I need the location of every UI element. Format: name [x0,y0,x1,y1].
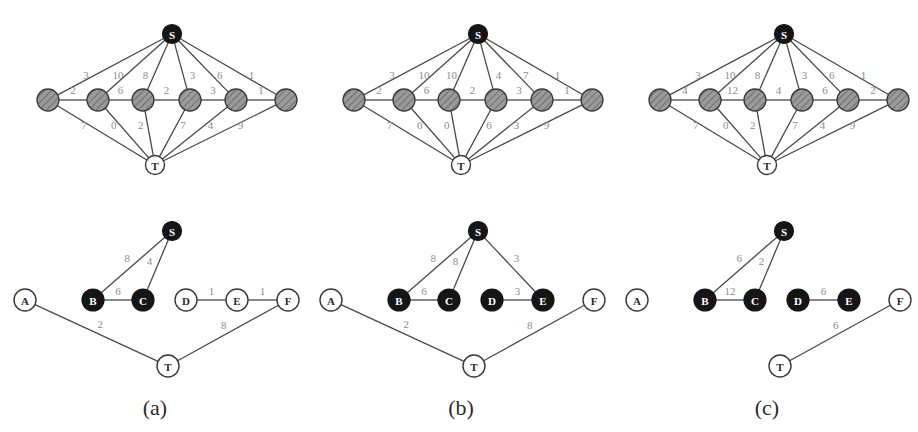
node-circle [393,89,415,111]
node-label: T [151,160,159,172]
weight-sink-1: 0 [417,119,423,131]
top-node-mid-1[interactable] [87,89,109,111]
graph-figure-svg: 310836126231702749ST8461128SABCDEFT(a)31… [0,0,918,432]
weight-D-E: 6 [821,285,827,297]
bottom-node-F[interactable]: F [889,289,911,311]
node-label: C [751,295,759,307]
edge-sink-mid-1 [717,108,760,158]
edge-sink-mid-3 [466,110,491,157]
edge-sink-mid-2 [145,111,153,156]
node-circle [649,89,671,111]
top-node-mid-3[interactable] [179,89,201,111]
top-node-mid-0[interactable] [649,89,671,111]
weight-chain-4: 1 [258,84,264,96]
bottom-node-D[interactable]: D [787,289,809,311]
bottom-node-B[interactable]: B [82,289,104,311]
bottom-node-S[interactable]: S [775,222,794,241]
weight-chain-1: 6 [118,84,124,96]
top-node-mid-3[interactable] [791,89,813,111]
weight-source-0: 3 [695,69,701,81]
edge-A-T [35,305,158,362]
bottom-node-S[interactable]: S [163,222,182,241]
bottom-node-C[interactable]: C [132,289,154,311]
bottom-node-D[interactable]: D [175,289,197,311]
bottom-node-A[interactable]: A [14,289,36,311]
weight-source-5: 1 [249,69,255,81]
panels-group: 310836126231702749ST8461128SABCDEFT(a)31… [14,25,911,421]
bottom-node-A[interactable]: A [320,289,342,311]
top-node-mid-0[interactable] [37,89,59,111]
bottom-node-D[interactable]: D [481,289,503,311]
bottom-node-S[interactable]: S [469,222,488,241]
edge-sink-mid-1 [411,108,454,158]
top-node-mid-4[interactable] [531,89,553,111]
panel-caption: (b) [448,395,474,420]
node-label: E [539,295,546,307]
top-node-sink[interactable]: T [758,156,777,175]
weight-T-F: 8 [221,319,227,331]
node-circle [887,89,909,111]
top-node-sink[interactable]: T [452,156,471,175]
weight-chain-3: 6 [822,84,828,96]
edge-sink-mid-1 [105,108,148,158]
top-node-mid-4[interactable] [837,89,859,111]
bottom-node-T[interactable]: T [769,355,791,377]
bottom-graph: 8836328SABCDEFT [320,222,605,378]
bottom-node-E[interactable]: E [838,289,860,311]
node-label: T [763,160,771,172]
bottom-node-T[interactable]: T [157,355,179,377]
edge-S-B [713,237,777,293]
bottom-node-F[interactable]: F [583,289,605,311]
edge-T-F [484,305,585,360]
edge-A-T [341,305,464,362]
top-node-mid-5[interactable] [887,89,909,111]
panel-b: 3101047126231700639ST8836328SABCDEFT(b) [320,25,605,421]
node-label: S [475,29,481,41]
bottom-node-C[interactable]: C [438,289,460,311]
weight-chain-2: 2 [470,84,476,96]
weight-source-3: 3 [190,69,196,81]
top-node-mid-2[interactable] [438,89,460,111]
top-node-mid-1[interactable] [393,89,415,111]
top-node-source[interactable]: S [775,25,794,44]
weight-source-5: 1 [861,69,867,81]
edge-T-F [790,305,891,360]
weight-source-1: 10 [112,69,124,81]
bottom-node-B[interactable]: B [388,289,410,311]
top-graph: 3101047126231700639ST [343,25,603,175]
bottom-node-C[interactable]: C [744,289,766,311]
top-node-mid-5[interactable] [581,89,603,111]
top-node-mid-3[interactable] [485,89,507,111]
top-node-source[interactable]: S [163,25,182,44]
weight-S-C: 2 [759,255,765,267]
panel-c: 3108361412462702749ST621266SABCDEFT(c) [626,25,911,421]
weight-sink-0: 7 [693,119,699,131]
weight-chain-4: 1 [564,84,570,96]
bottom-node-F[interactable]: F [277,289,299,311]
bottom-node-E[interactable]: E [532,289,554,311]
top-node-mid-0[interactable] [343,89,365,111]
bottom-node-T[interactable]: T [463,355,485,377]
bottom-node-B[interactable]: B [694,289,716,311]
bottom-graph: 621266SABCDEFT [626,222,911,378]
top-node-mid-2[interactable] [744,89,766,111]
weight-sink-0: 7 [81,119,87,131]
node-label: S [781,226,787,238]
top-node-mid-2[interactable] [132,89,154,111]
weight-S-C: 4 [147,255,153,267]
node-label: S [169,29,175,41]
node-label: T [776,361,784,373]
node-circle [699,89,721,111]
weight-chain-1: 12 [727,84,738,96]
bottom-node-A[interactable]: A [626,289,648,311]
top-node-mid-4[interactable] [225,89,247,111]
top-node-source[interactable]: S [469,25,488,44]
weight-sink-3: 7 [180,119,186,131]
top-node-mid-5[interactable] [275,89,297,111]
top-node-sink[interactable]: T [146,156,165,175]
weight-sink-4: 4 [208,119,214,131]
top-node-mid-1[interactable] [699,89,721,111]
node-label: D [488,295,496,307]
bottom-node-E[interactable]: E [226,289,248,311]
weight-A-T: 2 [98,318,104,330]
